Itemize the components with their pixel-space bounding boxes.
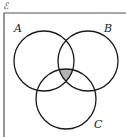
- circle-b: [58, 31, 118, 91]
- universal-set-symbol: ℰ: [3, 1, 10, 11]
- circle-a: [14, 31, 74, 91]
- label-c: C: [94, 118, 103, 131]
- label-b: B: [103, 22, 112, 35]
- label-a: A: [13, 22, 22, 35]
- venn-diagram: ℰ A B C: [0, 0, 126, 137]
